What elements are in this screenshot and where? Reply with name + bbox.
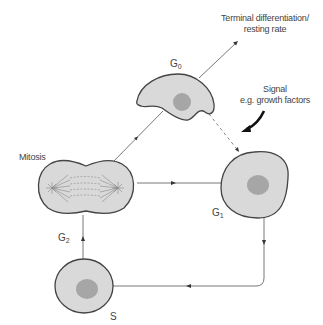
signal-arrow (241, 111, 264, 132)
edge-mitosis-to-g0 (110, 111, 163, 165)
cell-mitosis (38, 160, 133, 213)
g2-label: G2 (58, 232, 70, 244)
cell-s (55, 259, 113, 313)
edge-mitosis-to-g1 (137, 181, 222, 185)
arrowhead-icon (171, 181, 176, 185)
signal-line2: e.g. growth factors (235, 95, 315, 106)
terminal-line1: Terminal differentiation/ (215, 13, 315, 24)
arrowhead-icon (262, 240, 266, 245)
edge-s-to-mitosis (81, 215, 85, 259)
arrowhead-icon (81, 236, 85, 241)
signal-line1: Signal (235, 84, 315, 95)
signal-label: Signal e.g. growth factors (235, 84, 315, 106)
edge-g1-to-s (113, 217, 266, 288)
terminal-differentiation-label: Terminal differentiation/ resting rate (215, 13, 315, 35)
g0-label: G0 (170, 58, 182, 70)
cell-g1 (221, 152, 288, 218)
edge-g0-to-g1-dashed (209, 114, 239, 152)
cell-g0 (137, 74, 214, 120)
nucleus (76, 279, 98, 299)
edge-g0-to-terminal (199, 41, 238, 78)
cell-cycle-diagram (0, 0, 323, 325)
arrowhead-icon (186, 284, 191, 288)
mitosis-label: Mitosis (19, 152, 46, 162)
nucleus (247, 175, 269, 195)
terminal-line2: resting rate (215, 24, 315, 35)
arrowhead-icon (241, 125, 251, 132)
nucleus (173, 93, 191, 111)
g1-label: G1 (212, 207, 224, 219)
s-label: S (110, 311, 117, 322)
